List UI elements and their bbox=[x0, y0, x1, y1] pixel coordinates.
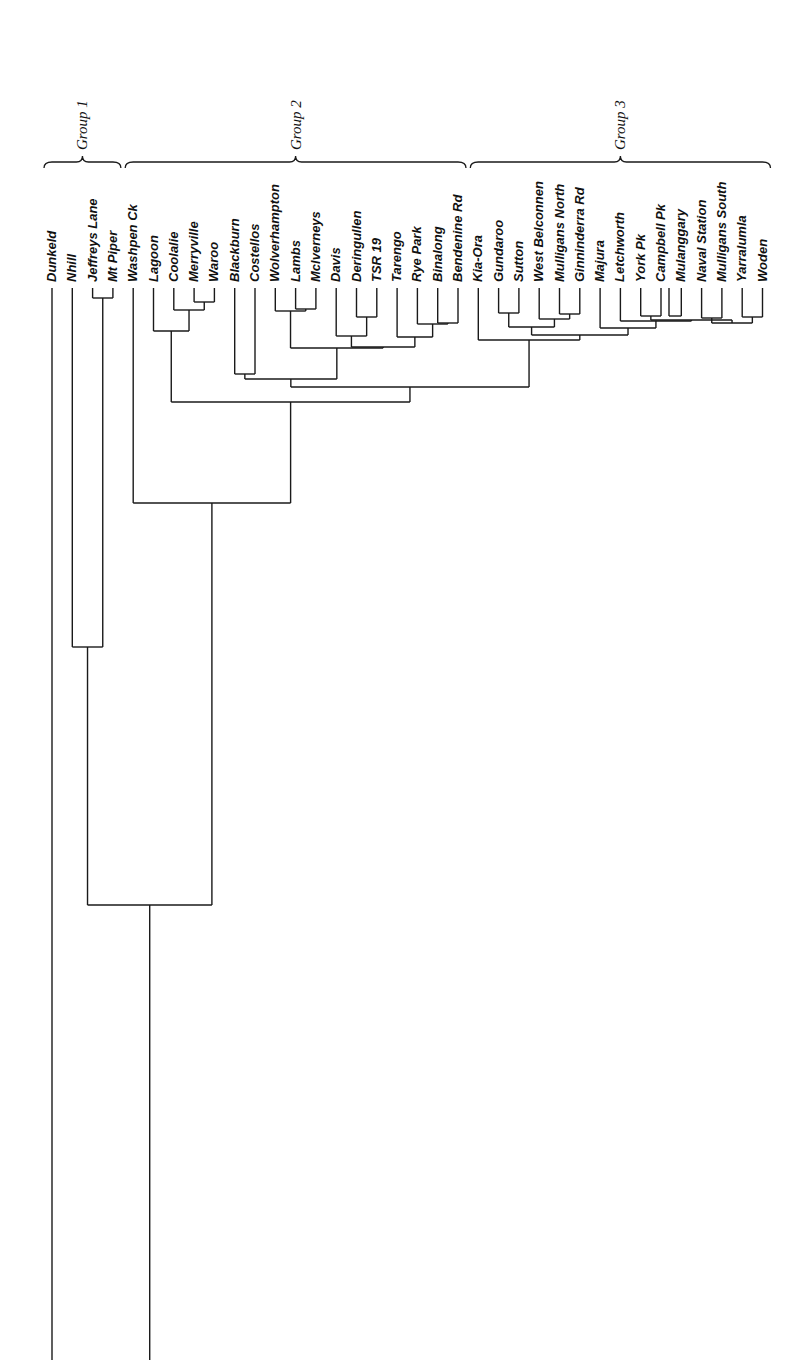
leaf-label: Kia-Ora bbox=[470, 235, 485, 282]
group-label: Group 2 bbox=[288, 100, 304, 150]
dendrogram: Group 1Group 2Group 3 DunkeldNhillJeffre… bbox=[0, 0, 804, 1360]
leaf-label: Mt Piper bbox=[105, 230, 120, 282]
leaf-label: Mulligans North bbox=[552, 184, 567, 282]
leaf-label: Bendenine Rd bbox=[450, 194, 465, 282]
group-label: Group 1 bbox=[74, 100, 90, 150]
leaf-label: Davis bbox=[328, 247, 343, 282]
leaf-label: Rye Park bbox=[409, 226, 424, 282]
leaf-label: Majura bbox=[592, 240, 607, 282]
leaf-labels: DunkeldNhillJeffreys LaneMt PiperWashpen… bbox=[44, 181, 770, 282]
group-braces bbox=[44, 156, 771, 168]
leaf-label: West Belconnen bbox=[531, 181, 546, 282]
leaf-label: York Pk bbox=[633, 233, 648, 282]
leaf-label: Lagoon bbox=[146, 235, 161, 282]
group-brace bbox=[44, 156, 121, 168]
leaf-label: Mulligans South bbox=[714, 182, 729, 282]
leaf-label: Deringullen bbox=[349, 210, 364, 282]
leaf-label: Gundaroo bbox=[491, 220, 506, 282]
leaf-label: Coolalie bbox=[166, 231, 181, 282]
group-brace bbox=[125, 156, 466, 168]
leaf-label: Sutton bbox=[511, 241, 526, 282]
leaf-label: Merryville bbox=[186, 221, 201, 282]
leaf-label: Lambs bbox=[288, 240, 303, 282]
leaf-label: Campbell Pk bbox=[653, 203, 668, 282]
leaf-label: Washpen Ck bbox=[125, 203, 140, 282]
leaf-label: Mulanggary bbox=[673, 208, 688, 282]
group-brace bbox=[470, 156, 770, 168]
leaf-label: Nhill bbox=[64, 253, 79, 282]
leaf-label: Costellos bbox=[247, 223, 262, 282]
leaf-label: Mclverneys bbox=[308, 211, 323, 282]
leaf-label: TSR 19 bbox=[369, 237, 384, 282]
leaf-label: Yarralumla bbox=[734, 215, 749, 282]
tree-branches bbox=[52, 288, 763, 1360]
leaf-label: Naval Station bbox=[694, 200, 709, 282]
leaf-label: Blackburn bbox=[227, 218, 242, 282]
group-labels: Group 1Group 2Group 3 bbox=[74, 100, 628, 150]
leaf-label: Woden bbox=[755, 239, 770, 282]
leaf-label: Wolverhampton bbox=[267, 184, 282, 282]
leaf-label: Jeffreys Lane bbox=[85, 198, 100, 282]
leaf-label: Dunkeld bbox=[44, 230, 59, 282]
leaf-label: Tarengo bbox=[389, 231, 404, 282]
leaf-label: Waroo bbox=[206, 242, 221, 282]
leaf-label: Ginninderra Rd bbox=[572, 186, 587, 282]
group-label: Group 3 bbox=[612, 100, 628, 150]
leaf-label: Binalong bbox=[430, 226, 445, 282]
leaf-label: Letchworth bbox=[612, 212, 627, 282]
